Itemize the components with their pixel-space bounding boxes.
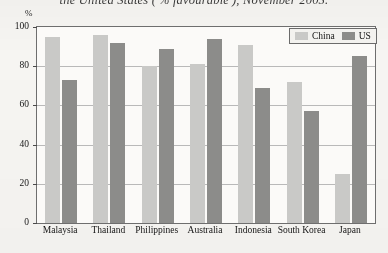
bar-philippines-china <box>142 66 157 223</box>
y-tick-label-80: 80 <box>0 60 32 70</box>
x-tick-label-philippines: Philippines <box>135 225 178 235</box>
bar-japan-us <box>352 56 367 223</box>
bar-indonesia-china <box>238 45 253 223</box>
bar-thailand-us <box>110 43 125 223</box>
y-tick-mark <box>33 223 37 224</box>
bar-philippines-us <box>159 49 174 223</box>
us-swatch-icon <box>342 32 355 40</box>
x-axis-tick-labels: MalaysiaThailandPhilippinesAustraliaIndo… <box>36 225 374 245</box>
bar-south-korea-china <box>287 82 302 223</box>
y-tick-label-0: 0 <box>0 217 32 227</box>
x-tick-label-australia: Australia <box>188 225 223 235</box>
y-tick-label-40: 40 <box>0 139 32 149</box>
x-tick-label-thailand: Thailand <box>92 225 126 235</box>
bar-australia-us <box>207 39 222 223</box>
legend-label-us: US <box>359 31 371 41</box>
bar-series-container <box>37 27 375 223</box>
bar-australia-china <box>190 64 205 223</box>
legend-item-china: China <box>295 31 335 41</box>
bar-south-korea-us <box>304 111 319 223</box>
bar-thailand-china <box>93 35 108 223</box>
legend: China US <box>289 28 377 44</box>
y-tick-label-60: 60 <box>0 99 32 109</box>
x-tick-label-indonesia: Indonesia <box>235 225 272 235</box>
china-swatch-icon <box>295 32 308 40</box>
legend-label-china: China <box>312 31 335 41</box>
bar-indonesia-us <box>255 88 270 223</box>
legend-item-us: US <box>342 31 371 41</box>
bar-malaysia-china <box>45 37 60 223</box>
x-tick-label-japan: Japan <box>339 225 361 235</box>
plot-area <box>36 26 376 224</box>
y-tick-label-100: 100 <box>0 21 32 31</box>
chart-page: the United States ('% favourable'), Nove… <box>0 0 388 253</box>
y-tick-label-20: 20 <box>0 178 32 188</box>
bar-malaysia-us <box>62 80 77 223</box>
x-tick-label-south-korea: South Korea <box>278 225 326 235</box>
bar-japan-china <box>335 174 350 223</box>
x-tick-label-malaysia: Malaysia <box>43 225 78 235</box>
figure-caption: the United States ('% favourable'), Nove… <box>0 0 388 7</box>
y-axis-tick-labels: 020406080100 <box>0 0 32 253</box>
